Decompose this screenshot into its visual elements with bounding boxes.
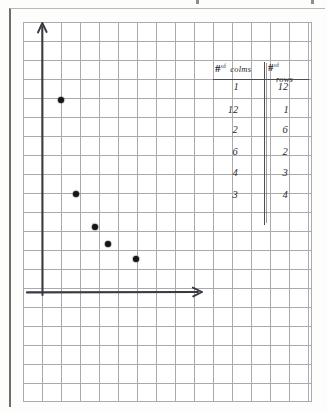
table-column-divider-shadow [266, 63, 267, 223]
worksheet-page: #of colms #of rows 1 12 2 6 4 3 12 1 6 2… [0, 0, 327, 411]
table-header-rows: #of rows [268, 62, 293, 83]
data-point [92, 224, 98, 230]
table-cell-columns: 3 [222, 189, 248, 200]
data-point [58, 97, 64, 103]
data-point [73, 191, 79, 197]
table-cell-rows: 4 [272, 189, 298, 200]
of-glyph: of [221, 63, 226, 69]
table-header-columns-label: colms [230, 64, 251, 74]
table-cell-rows: 1 [273, 104, 299, 115]
data-point [105, 241, 111, 247]
table-cell-rows: 12 [270, 81, 296, 92]
data-point [133, 256, 139, 262]
table-cell-rows: 3 [272, 167, 298, 178]
table-header-columns: #of colms [215, 63, 251, 74]
table-cell-rows: 2 [272, 146, 298, 157]
factor-pair-table: #of colms #of rows 1 12 2 6 4 3 12 1 6 2… [211, 60, 312, 225]
table-header-rule [213, 79, 309, 80]
table-cell-columns: 6 [222, 146, 248, 157]
table-cell-columns: 12 [220, 104, 246, 115]
table-cell-columns: 1 [223, 81, 249, 92]
table-cell-columns: 4 [222, 167, 248, 178]
of-glyph: of [274, 62, 279, 68]
hash-glyph: # [268, 61, 274, 73]
table-cell-rows: 6 [272, 124, 298, 135]
table-column-divider [264, 62, 265, 225]
table-cell-columns: 2 [222, 124, 248, 135]
hash-glyph: # [215, 62, 221, 74]
